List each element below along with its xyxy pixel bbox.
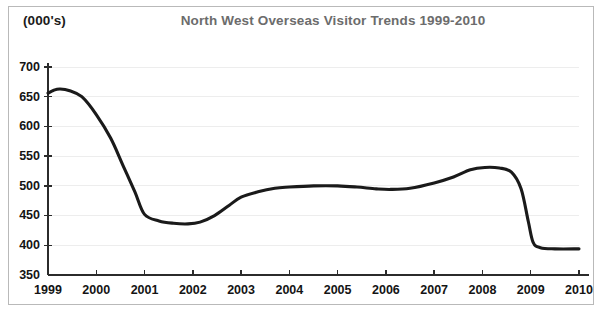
y-tick-label: 450 — [19, 208, 40, 222]
y-tick-label: 650 — [19, 90, 40, 104]
chart-svg: 350400450500550600650700 199920002001200… — [9, 7, 595, 306]
x-tick-label: 2002 — [179, 283, 207, 297]
y-tick-label: 600 — [19, 119, 40, 133]
y-tick-label: 400 — [19, 238, 40, 252]
x-tick-label: 2006 — [372, 283, 400, 297]
chart-figure: (000's) North West Overseas Visitor Tren… — [0, 0, 602, 319]
y-tick-label: 350 — [19, 268, 40, 282]
x-tick-label: 2005 — [324, 283, 352, 297]
y-tick-label: 700 — [19, 60, 40, 74]
x-tick-label: 2007 — [420, 283, 448, 297]
x-tick-label: 2010 — [565, 283, 593, 297]
series-line — [48, 89, 579, 249]
data-series — [48, 89, 579, 249]
x-axis-labels: 1999200020012002200320042005200620072008… — [34, 283, 593, 297]
chart-frame: (000's) North West Overseas Visitor Tren… — [8, 6, 594, 305]
x-tick-label: 2003 — [227, 283, 255, 297]
y-tick-label: 550 — [19, 149, 40, 163]
x-tick-label: 2001 — [131, 283, 159, 297]
x-tick-label: 2000 — [82, 283, 110, 297]
y-axis-labels: 350400450500550600650700 — [19, 60, 40, 282]
x-tick-label: 2004 — [275, 283, 303, 297]
y-tick-label: 500 — [19, 179, 40, 193]
x-tick-label: 2008 — [469, 283, 497, 297]
x-tick-label: 2009 — [517, 283, 545, 297]
plot-area: 350400450500550600650700 199920002001200… — [9, 7, 595, 306]
gridlines — [48, 67, 579, 245]
x-tick-label: 1999 — [34, 283, 62, 297]
